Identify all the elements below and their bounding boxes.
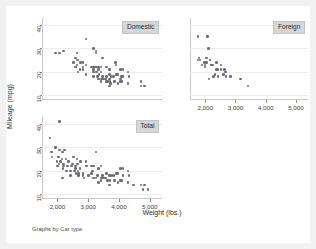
data-point xyxy=(57,156,60,159)
panel-total: Total xyxy=(42,117,162,199)
data-point xyxy=(97,181,100,184)
y-tick-label: 20 xyxy=(35,171,42,179)
data-point xyxy=(205,57,208,60)
x-tick-mark xyxy=(266,100,267,103)
gridline-y xyxy=(42,171,162,172)
data-point xyxy=(92,75,95,78)
data-point xyxy=(101,57,104,60)
data-point xyxy=(72,156,75,159)
data-point xyxy=(69,170,72,173)
data-point xyxy=(108,184,111,187)
data-point xyxy=(109,179,112,182)
data-point xyxy=(85,160,88,163)
chart-figure: Mileage (mpg) Weight (lbs.) Graphs by Ca… xyxy=(0,0,316,249)
y-tick-label: 20 xyxy=(35,72,42,80)
data-point xyxy=(61,177,64,180)
y-tick-label: 10 xyxy=(35,194,42,202)
data-point xyxy=(207,47,210,50)
x-tick-mark xyxy=(296,100,297,103)
data-point xyxy=(63,149,66,152)
panel-domestic: Domestic xyxy=(42,18,162,100)
data-point xyxy=(197,35,200,38)
data-point xyxy=(115,73,118,76)
data-point xyxy=(97,78,100,81)
y-tick-label: 40 xyxy=(35,25,42,33)
data-point xyxy=(65,170,68,173)
data-point xyxy=(97,167,100,170)
data-point xyxy=(62,50,65,53)
data-point xyxy=(212,75,215,78)
data-point xyxy=(77,174,80,177)
x-tick-mark xyxy=(57,199,58,202)
y-tick-label: 30 xyxy=(35,147,42,155)
data-point xyxy=(58,120,61,123)
panel-label-total: Total xyxy=(136,120,159,133)
data-point xyxy=(67,160,70,163)
x-tick-label: 2,000 xyxy=(197,104,212,111)
data-point xyxy=(127,181,130,184)
data-point xyxy=(120,80,123,83)
data-point xyxy=(116,172,119,175)
figure-note: Graphs by Car type xyxy=(32,226,82,232)
data-point xyxy=(87,174,90,177)
data-point xyxy=(92,71,95,74)
data-point xyxy=(132,184,135,187)
y-axis-title: Mileage (mpg) xyxy=(6,77,13,137)
gridline-y xyxy=(42,48,162,49)
data-point xyxy=(127,82,130,85)
data-point xyxy=(122,174,125,177)
x-tick-mark xyxy=(150,199,151,202)
data-point xyxy=(108,68,111,71)
data-point xyxy=(203,61,206,64)
x-tick-label: 4,000 xyxy=(111,203,126,210)
data-point xyxy=(79,167,82,170)
data-point xyxy=(90,172,93,175)
data-point xyxy=(82,68,85,71)
data-point xyxy=(215,61,218,64)
data-point xyxy=(69,174,72,177)
gridline-y xyxy=(42,72,162,73)
data-point xyxy=(96,174,99,177)
gridline-y xyxy=(190,72,308,73)
panel-label-foreign: Foreign xyxy=(273,21,305,34)
data-point xyxy=(223,68,226,71)
data-point xyxy=(54,146,57,149)
data-point xyxy=(100,179,103,182)
data-point xyxy=(113,80,116,83)
x-tick-mark xyxy=(235,100,236,103)
x-tick-label: 5,000 xyxy=(288,104,303,111)
data-point xyxy=(82,61,85,64)
data-point xyxy=(85,73,88,76)
data-point xyxy=(108,85,111,88)
gridline-y xyxy=(42,95,162,96)
x-axis-title: Weight (lbs.) xyxy=(102,209,222,216)
gridline-y xyxy=(42,194,162,195)
data-point xyxy=(72,61,75,64)
data-point xyxy=(74,57,77,60)
x-tick-label: 2,000 xyxy=(50,203,65,210)
data-point xyxy=(206,35,209,38)
x-tick-mark xyxy=(88,199,89,202)
data-point xyxy=(222,73,225,76)
data-point xyxy=(92,68,95,71)
y-tick-label: 30 xyxy=(35,48,42,56)
data-point xyxy=(140,80,143,83)
data-point xyxy=(109,82,112,85)
data-point xyxy=(119,179,122,182)
data-point xyxy=(215,68,218,71)
x-tick-label: 5,000 xyxy=(142,203,157,210)
data-point xyxy=(239,78,242,81)
data-point xyxy=(100,80,103,83)
x-tick-label: 3,000 xyxy=(80,203,95,210)
x-tick-mark xyxy=(205,100,206,103)
data-point xyxy=(106,80,109,83)
data-point xyxy=(112,174,115,177)
x-tick-label: 3,000 xyxy=(228,104,243,111)
data-point xyxy=(122,68,125,71)
data-point xyxy=(113,179,116,182)
data-point xyxy=(220,68,223,71)
data-point xyxy=(79,160,82,163)
y-tick-label: 10 xyxy=(35,95,42,103)
data-point xyxy=(122,167,125,170)
panel-label-domestic: Domestic xyxy=(122,21,159,34)
